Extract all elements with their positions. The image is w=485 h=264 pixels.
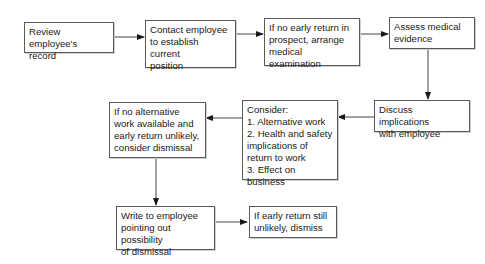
node-consider-options: Consider: 1. Alternative work 2. Health … — [242, 100, 338, 180]
node-dismiss: If early return still unlikely, dismiss — [249, 206, 337, 238]
node-arrange-medical-exam: If no early return in prospect, arrange … — [264, 18, 360, 66]
flowchart-canvas: Review employee's record Contact employe… — [0, 0, 485, 264]
node-contact-employee: Contact employee to establish current po… — [145, 20, 236, 68]
node-discuss-implications: Discuss implications with employee — [374, 100, 470, 132]
node-no-alternative-consider-dismissal: If no alternative work available and ear… — [109, 102, 206, 158]
node-write-to-employee: Write to employee pointing out possibili… — [116, 206, 215, 250]
node-review-record: Review employee's record — [24, 22, 114, 53]
node-assess-medical-evidence: Assess medical evidence — [389, 17, 475, 49]
